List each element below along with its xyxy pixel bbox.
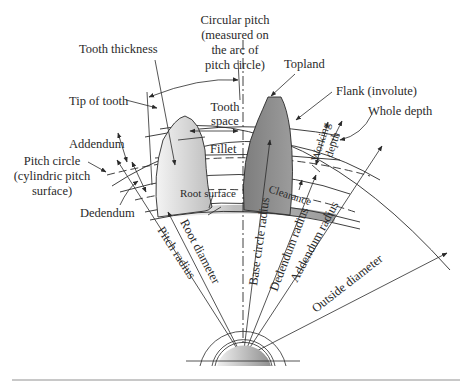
label-outside-diameter: Outside diameter (309, 251, 386, 315)
gear-tooth-diagram: Circular pitch (measured on the arc of p… (0, 0, 470, 387)
root-diameter-line (168, 212, 243, 358)
label-circular-pitch-4: pitch circle) (205, 58, 265, 72)
label-circular-pitch-2: (measured on (201, 28, 269, 42)
label-circular-pitch-1: Circular pitch (200, 13, 270, 27)
label-dedendum: Dedendum (80, 206, 135, 220)
label-circular-pitch-3: the arc of (211, 43, 259, 57)
label-tooth-space-2: space (211, 114, 239, 128)
label-pitch-circle-1: Pitch circle (24, 154, 81, 168)
label-tooth-space-1: Tooth (211, 100, 241, 114)
label-addendum: Addendum (69, 137, 125, 151)
label-pitch-circle-3: surface) (32, 184, 72, 198)
label-tooth-thickness: Tooth thickness (79, 42, 158, 56)
label-topland: Topland (284, 57, 326, 71)
circular-pitch-arrow (149, 80, 238, 97)
label-flank: Flank (involute) (336, 84, 417, 98)
label-whole-depth: Whole depth (368, 104, 433, 118)
label-pitch-circle-2: (cylindric pitch (14, 169, 91, 183)
label-tip-of-tooth: Tip of tooth (69, 94, 129, 108)
label-fillet: Fillet (210, 142, 237, 156)
label-root-surface: Root surface (180, 187, 236, 199)
